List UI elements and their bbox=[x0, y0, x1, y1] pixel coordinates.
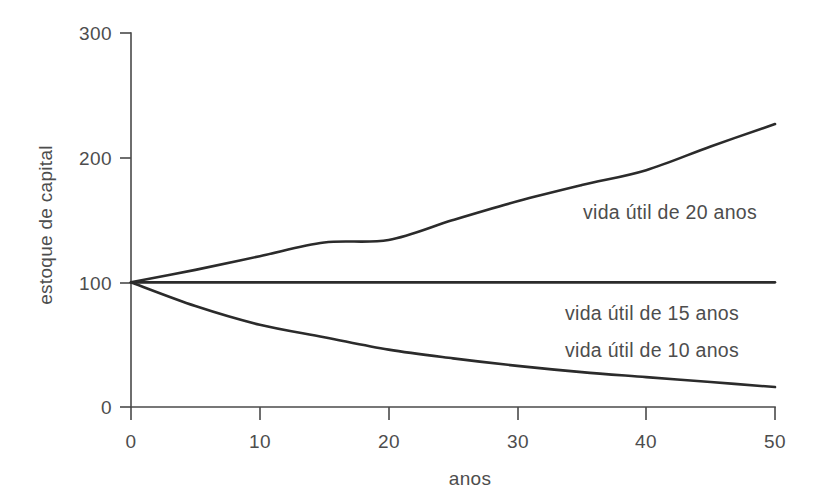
x-tick-label-40: 40 bbox=[635, 431, 657, 452]
capital-stock-line-chart: 300 200 100 0 0 10 20 30 40 50 anos esto… bbox=[0, 0, 815, 504]
x-axis-ticks bbox=[131, 407, 775, 420]
x-tick-label-20: 20 bbox=[378, 431, 400, 452]
x-tick-label-30: 30 bbox=[507, 431, 529, 452]
x-tick-label-0: 0 bbox=[126, 431, 137, 452]
x-axis-title: anos bbox=[449, 468, 491, 489]
x-axis-tick-labels: 0 10 20 30 40 50 bbox=[126, 431, 786, 452]
series-line-vida-util-10-anos bbox=[131, 282, 775, 387]
y-tick-label-300: 300 bbox=[79, 23, 112, 44]
x-tick-label-50: 50 bbox=[764, 431, 786, 452]
series-label-vida-util-20-anos: vida útil de 20 anos bbox=[583, 201, 757, 223]
y-tick-label-0: 0 bbox=[101, 397, 112, 418]
chart-figure: 300 200 100 0 0 10 20 30 40 50 anos esto… bbox=[0, 0, 815, 504]
x-tick-label-10: 10 bbox=[249, 431, 271, 452]
y-axis-tick-labels: 300 200 100 0 bbox=[79, 23, 112, 418]
y-axis-title: estoque de capital bbox=[35, 145, 56, 305]
y-axis-ticks bbox=[120, 33, 131, 407]
series-label-vida-util-10-anos: vida útil de 10 anos bbox=[565, 339, 739, 361]
y-tick-label-200: 200 bbox=[79, 148, 112, 169]
y-tick-label-100: 100 bbox=[79, 273, 112, 294]
series-label-vida-util-15-anos: vida útil de 15 anos bbox=[565, 302, 739, 324]
